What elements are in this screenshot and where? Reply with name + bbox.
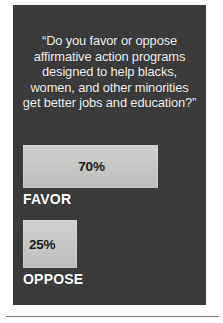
chart-panel: “Do you favor or oppose affirmative acti…: [13, 5, 206, 305]
bar-group-favor: 70% FAVOR: [23, 145, 158, 207]
question-line-2: affirmative action programs: [20, 49, 199, 65]
bar-oppose: 25%: [23, 220, 77, 268]
poll-graphic: “Do you favor or oppose affirmative acti…: [0, 0, 223, 323]
question-line-1: “Do you favor or oppose: [20, 33, 199, 49]
bar-group-oppose: 25% OPPOSE: [23, 220, 83, 287]
bar-label-oppose: OPPOSE: [23, 271, 83, 287]
poll-question: “Do you favor or oppose affirmative acti…: [20, 33, 199, 111]
bar-label-favor: FAVOR: [23, 191, 158, 207]
question-line-3: designed to help blacks,: [20, 64, 199, 80]
bottom-divider: [6, 316, 219, 317]
bar-value-oppose: 25%: [23, 237, 77, 252]
bar-favor: 70%: [23, 145, 158, 188]
question-line-5: get better jobs and education?”: [20, 95, 199, 111]
question-line-4: women, and other minorities: [20, 80, 199, 96]
bar-value-favor: 70%: [23, 159, 158, 174]
